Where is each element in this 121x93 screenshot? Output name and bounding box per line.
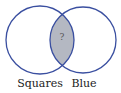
set-label-squares: Squares	[17, 77, 63, 90]
intersection-label: ?	[60, 32, 65, 42]
set-label-blue: Blue	[71, 77, 96, 90]
venn-diagram: ? Squares Blue	[0, 0, 121, 93]
